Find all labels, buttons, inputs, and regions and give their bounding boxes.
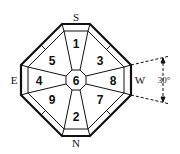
angle-label: 30° bbox=[158, 75, 171, 85]
cell-8-label: 8 bbox=[110, 74, 117, 88]
cell-5-label: 5 bbox=[49, 54, 56, 68]
cell-4-label: 4 bbox=[36, 74, 43, 88]
cell-2-label: 2 bbox=[73, 110, 80, 124]
direction-right-label: W bbox=[135, 74, 146, 86]
direction-bottom-label: N bbox=[72, 137, 80, 149]
cell-3-label: 3 bbox=[97, 54, 104, 68]
direction-top-label: S bbox=[73, 11, 79, 23]
cell-6-label: 6 bbox=[73, 74, 80, 88]
cell-7-label: 7 bbox=[97, 93, 104, 107]
cell-9-label: 9 bbox=[49, 93, 56, 107]
octagon-diagram: 1 2 3 4 5 6 7 8 9 S N E W 30° bbox=[0, 0, 180, 154]
cell-1-label: 1 bbox=[73, 37, 80, 51]
direction-left-label: E bbox=[11, 74, 18, 86]
